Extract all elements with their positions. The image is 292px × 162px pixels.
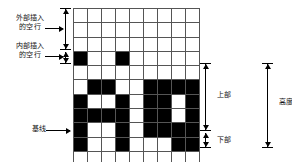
inner-leading-cap-bottom bbox=[60, 63, 71, 64]
grid-cell-6-7 bbox=[172, 95, 185, 108]
label-height-text: 高度 bbox=[279, 98, 292, 106]
grid-cell-8-1 bbox=[88, 123, 101, 136]
grid-cell-0-4 bbox=[130, 9, 143, 22]
grid-cell-2-3 bbox=[116, 38, 129, 51]
grid-cell-3-1 bbox=[88, 52, 101, 65]
grid-cell-5-7 bbox=[172, 80, 185, 93]
grid-cell-0-3 bbox=[116, 9, 129, 22]
grid-cell-6-4 bbox=[130, 95, 143, 108]
grid-cell-1-8 bbox=[186, 23, 199, 36]
grid-cell-3-8 bbox=[186, 52, 199, 65]
grid-cell-3-5 bbox=[144, 52, 157, 65]
grid-cell-9-0 bbox=[74, 138, 87, 151]
ascender-measure bbox=[205, 64, 206, 130]
grid-cell-5-8 bbox=[186, 80, 199, 93]
label-ascender: 上部 bbox=[212, 91, 236, 100]
grid-cell-4-8 bbox=[186, 66, 199, 79]
grid-cell-3-2 bbox=[102, 52, 115, 65]
grid-cell-7-2 bbox=[102, 109, 115, 122]
grid-cell-10-7 bbox=[172, 152, 185, 162]
grid-cell-0-1 bbox=[88, 9, 101, 22]
label-descender: 下部 bbox=[212, 136, 236, 145]
grid-cell-3-4 bbox=[130, 52, 143, 65]
grid-cell-6-5 bbox=[144, 95, 157, 108]
grid-cell-2-0 bbox=[74, 38, 87, 51]
grid-cell-4-3 bbox=[116, 66, 129, 79]
grid-cell-6-2 bbox=[102, 95, 115, 108]
grid-cell-5-6 bbox=[158, 80, 171, 93]
outer-leading-cap-bottom bbox=[60, 49, 71, 50]
grid-cell-5-2 bbox=[102, 80, 115, 93]
grid-cell-1-7 bbox=[172, 23, 185, 36]
grid-cell-1-2 bbox=[102, 23, 115, 36]
grid-cell-6-3 bbox=[116, 95, 129, 108]
grid-cell-9-6 bbox=[158, 138, 171, 151]
grid-cell-10-6 bbox=[158, 152, 171, 162]
grid-cell-9-5 bbox=[144, 138, 157, 151]
grid-cell-10-1 bbox=[88, 152, 101, 162]
grid-cell-5-0 bbox=[74, 80, 87, 93]
grid-cell-5-5 bbox=[144, 80, 157, 93]
grid-cell-10-5 bbox=[144, 152, 157, 162]
grid-cell-8-2 bbox=[102, 123, 115, 136]
inner-leading-measure bbox=[65, 52, 66, 63]
grid-cell-1-0 bbox=[74, 23, 87, 36]
height-measure bbox=[267, 64, 268, 147]
descender-cap-bottom bbox=[200, 147, 211, 148]
label-height: 高度 bbox=[274, 98, 292, 107]
label-outer-leading-line1: 外部插入 bbox=[16, 14, 45, 22]
grid-cell-7-5 bbox=[144, 109, 157, 122]
outer-leading-measure bbox=[65, 9, 66, 49]
grid-cell-4-0 bbox=[74, 66, 87, 79]
label-baseline-text: 基线 bbox=[32, 125, 46, 133]
diagram-canvas: 外部插入 的空行 内部插入 的空行 基线 上部 下部 高度 bbox=[0, 0, 292, 162]
grid-cell-6-0 bbox=[74, 95, 87, 108]
descender-measure bbox=[205, 133, 206, 147]
grid-cell-0-6 bbox=[158, 9, 171, 22]
grid-cell-10-2 bbox=[102, 152, 115, 162]
grid-cell-4-2 bbox=[102, 66, 115, 79]
grid-cell-4-4 bbox=[130, 66, 143, 79]
grid-cell-2-2 bbox=[102, 38, 115, 51]
grid-cell-4-1 bbox=[88, 66, 101, 79]
label-inner-leading-line1: 内部插入 bbox=[16, 42, 45, 50]
grid-cell-2-4 bbox=[130, 38, 143, 51]
grid-cell-0-5 bbox=[144, 9, 157, 22]
grid-cell-2-5 bbox=[144, 38, 157, 51]
grid-cell-1-5 bbox=[144, 23, 157, 36]
grid-cell-8-6 bbox=[158, 123, 171, 136]
grid-cell-9-8 bbox=[186, 138, 199, 151]
grid-cell-1-1 bbox=[88, 23, 101, 36]
grid-cell-4-5 bbox=[144, 66, 157, 79]
bitmap-grid bbox=[73, 8, 200, 162]
label-inner-leading: 内部插入 的空行 bbox=[2, 42, 58, 60]
grid-cell-8-8 bbox=[186, 123, 199, 136]
grid-cell-7-3 bbox=[116, 109, 129, 122]
grid-cell-3-6 bbox=[158, 52, 171, 65]
grid-cell-0-8 bbox=[186, 9, 199, 22]
ascender-cap-bottom bbox=[200, 130, 211, 131]
grid-cell-7-8 bbox=[186, 109, 199, 122]
grid-cell-5-1 bbox=[88, 80, 101, 93]
grid-cell-1-4 bbox=[130, 23, 143, 36]
grid-cell-4-7 bbox=[172, 66, 185, 79]
grid-cell-7-7 bbox=[172, 109, 185, 122]
baseline-arrow-icon bbox=[46, 130, 70, 131]
height-cap-bottom bbox=[262, 147, 273, 148]
grid-cell-7-4 bbox=[130, 109, 143, 122]
outer-leading-arrow-icon bbox=[45, 28, 63, 29]
grid-cell-9-3 bbox=[116, 138, 129, 151]
grid-cell-8-0 bbox=[74, 123, 87, 136]
inner-leading-arrow-icon bbox=[45, 56, 63, 57]
label-outer-leading: 外部插入 的空行 bbox=[2, 14, 58, 32]
grid-cell-2-8 bbox=[186, 38, 199, 51]
grid-cell-10-0 bbox=[74, 152, 87, 162]
grid-cell-9-7 bbox=[172, 138, 185, 151]
grid-cell-6-8 bbox=[186, 95, 199, 108]
grid-cell-3-0 bbox=[74, 52, 87, 65]
grid-cell-3-7 bbox=[172, 52, 185, 65]
grid-cell-8-4 bbox=[130, 123, 143, 136]
grid-cell-0-0 bbox=[74, 9, 87, 22]
grid-cell-0-2 bbox=[102, 9, 115, 22]
grid-cell-2-7 bbox=[172, 38, 185, 51]
